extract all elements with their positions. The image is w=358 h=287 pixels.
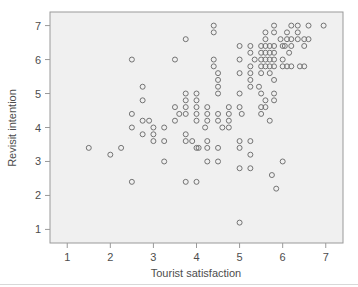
- y-axis-ticks: 1234567: [35, 20, 50, 236]
- footer-divider: [0, 284, 358, 285]
- y-axis-title: Revisit intention: [6, 89, 18, 167]
- y-tick-label: 3: [35, 155, 41, 167]
- y-tick-label: 4: [35, 122, 41, 134]
- y-tick-label: 5: [35, 88, 41, 100]
- y-tick-label: 6: [35, 54, 41, 66]
- x-tick-label: 6: [280, 251, 286, 263]
- x-tick-label: 5: [237, 251, 243, 263]
- chart-canvas: 1234567 1234567 Tourist satisfaction Rev…: [0, 0, 358, 287]
- x-tick-label: 4: [193, 251, 199, 263]
- x-tick-label: 2: [107, 251, 113, 263]
- y-tick-label: 2: [35, 189, 41, 201]
- x-tick-label: 7: [323, 251, 329, 263]
- plot-background: [50, 12, 343, 243]
- x-tick-label: 3: [150, 251, 156, 263]
- x-axis-title: Tourist satisfaction: [151, 267, 241, 279]
- scatter-plot-figure: 1234567 1234567 Tourist satisfaction Rev…: [0, 0, 358, 287]
- y-tick-label: 1: [35, 223, 41, 235]
- x-axis-ticks: 1234567: [64, 243, 329, 263]
- y-tick-label: 7: [35, 20, 41, 32]
- x-tick-label: 1: [64, 251, 70, 263]
